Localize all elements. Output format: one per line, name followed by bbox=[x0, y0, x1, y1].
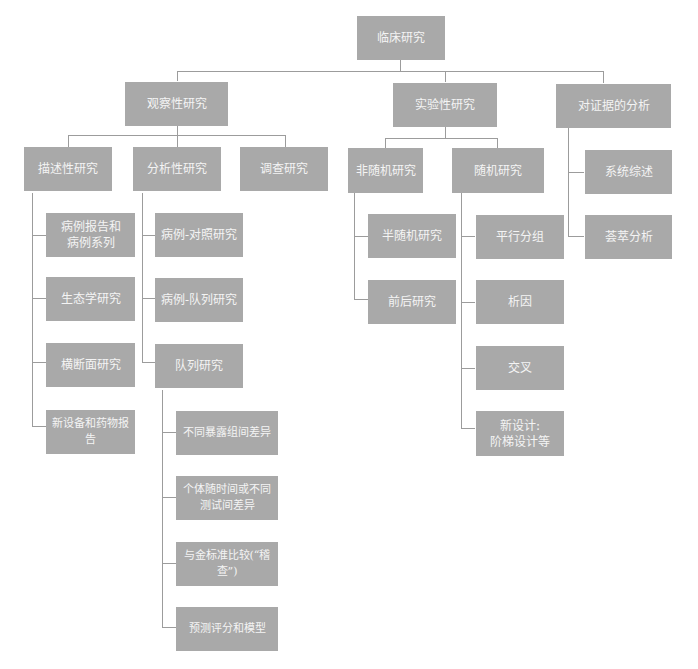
node-case-reports: 病例报告和 病例系列 bbox=[46, 213, 135, 257]
node-gold-standard-comparison: 与金标准比较(“稽查”) bbox=[176, 542, 278, 586]
node-crossover: 交叉 bbox=[476, 346, 564, 390]
node-cross-sectional-study: 横断面研究 bbox=[46, 343, 135, 387]
node-before-after-study: 前后研究 bbox=[368, 280, 456, 324]
node-case-cohort-study: 病例-队列研究 bbox=[155, 278, 243, 322]
node-analytic-study: 分析性研究 bbox=[133, 147, 221, 191]
node-survey-study: 调查研究 bbox=[240, 147, 328, 191]
node-descriptive-study: 描述性研究 bbox=[24, 147, 112, 191]
node-clinical-research: 临床研究 bbox=[357, 16, 445, 60]
node-ecological-study: 生态学研究 bbox=[46, 277, 135, 321]
node-meta-analysis: 荟萃分析 bbox=[585, 215, 672, 259]
node-quasi-random-study: 半随机研究 bbox=[368, 214, 456, 258]
node-exposure-group-difference: 不同暴露组间差异 bbox=[176, 411, 278, 455]
node-observational-study: 观察性研究 bbox=[125, 82, 228, 126]
node-parallel-groups: 平行分组 bbox=[476, 215, 564, 259]
node-systematic-review: 系统综述 bbox=[585, 150, 672, 194]
node-prediction-scores-models: 预测评分和模型 bbox=[176, 607, 278, 651]
node-new-device-drug-reports: 新设备和药物报告 bbox=[46, 410, 135, 454]
node-randomized-study: 随机研究 bbox=[452, 148, 544, 193]
node-new-designs-stepped: 新设计: 阶梯设计等 bbox=[476, 411, 564, 456]
node-case-control-study: 病例-对照研究 bbox=[155, 213, 243, 257]
node-cohort-study: 队列研究 bbox=[155, 344, 243, 388]
node-experimental-study: 实验性研究 bbox=[393, 83, 497, 127]
node-individual-time-difference: 个体随时间或不同 测试间差异 bbox=[176, 476, 278, 520]
node-evidence-analysis: 对证据的分析 bbox=[556, 84, 671, 128]
node-nonrandomized-study: 非随机研究 bbox=[348, 148, 423, 193]
node-factorial: 析因 bbox=[476, 280, 564, 324]
